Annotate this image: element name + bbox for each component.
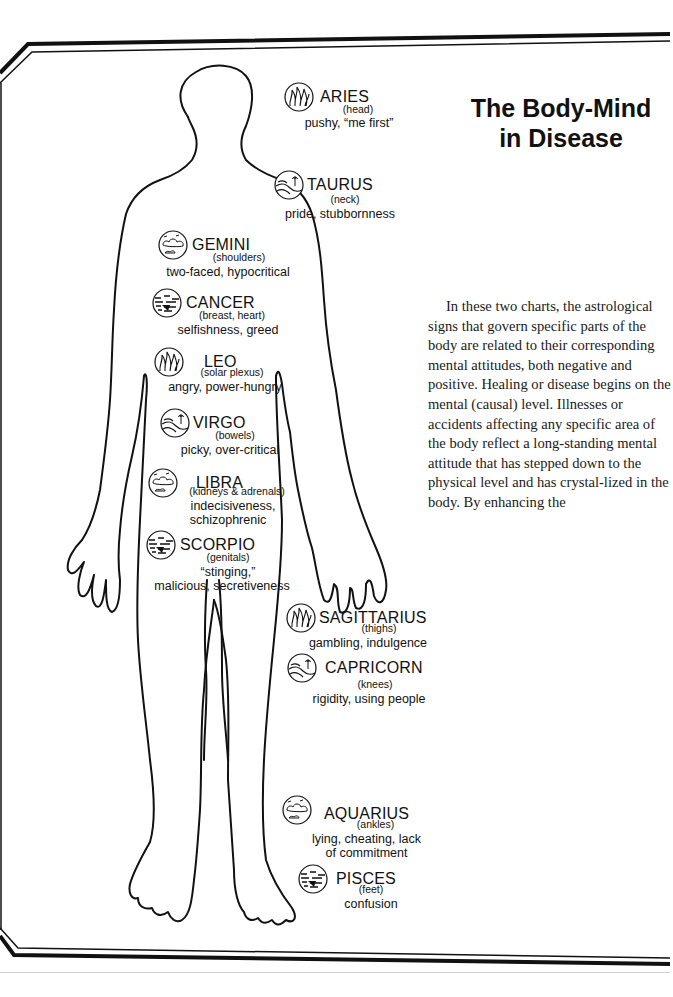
water-icon — [152, 288, 182, 318]
trait: indecisiveness, — [168, 499, 298, 513]
title-line-2: in Disease — [452, 123, 670, 153]
air-icon — [282, 795, 312, 825]
air-icon — [148, 468, 178, 498]
sign-sagittarius: SAGITTARIUS (thighs) gambling, indulgenc… — [286, 603, 436, 650]
bottom-divider — [0, 972, 670, 973]
page-title: The Body-Mind in Disease — [452, 93, 670, 153]
sign-name: TAURUS — [307, 177, 373, 193]
water-icon — [298, 864, 328, 894]
sign-aquarius: AQUARIUS (ankles) lying, cheating, lack … — [282, 795, 437, 860]
sign-virgo: VIRGO (bowels) picky, over-critical — [160, 408, 300, 457]
trait: selfishness, greed — [148, 323, 308, 337]
water-icon — [146, 530, 176, 560]
body-part: (kidneys & adrenals) — [176, 486, 298, 497]
title-line-1: The Body-Mind — [452, 93, 670, 123]
body-part: (solar plexus) — [164, 367, 300, 378]
sign-aries: ARIES (head) pushy, “me first” — [284, 82, 414, 130]
trait: picky, over-critical — [160, 443, 300, 457]
body-part: (head) — [302, 104, 414, 115]
trait-continued: malicious, secretiveness — [142, 579, 302, 593]
fire-icon — [284, 82, 314, 112]
trait: two-faced, hypocritical — [148, 265, 308, 279]
sign-scorpio: SCORPIO (genitals) “stinging,” malicious… — [142, 530, 302, 593]
sign-name: CAPRICORN — [325, 660, 423, 676]
earth-icon — [287, 653, 317, 683]
sign-libra: LIBRA (kidneys & adrenals) indecisivenes… — [148, 468, 298, 527]
trait: pushy, “me first” — [284, 116, 414, 130]
body-part: (shoulders) — [170, 252, 308, 263]
body-paragraph: In these two charts, the astrological si… — [428, 297, 673, 513]
trait: pride, stubbornness — [270, 207, 410, 221]
sign-leo: LEO (solar plexus) angry, power-hungry — [150, 347, 300, 394]
trait: angry, power-hungry — [150, 380, 300, 394]
body-part: (genitals) — [154, 552, 302, 563]
sign-cancer: CANCER (breast, heart) selfishness, gree… — [148, 288, 308, 337]
body-part: (knees) — [313, 679, 437, 690]
trait: gambling, indulgence — [300, 636, 436, 650]
sign-pisces: PISCES (feet) confusion — [298, 864, 408, 911]
earth-icon — [160, 408, 190, 438]
body-text: In these two charts, the astrological si… — [428, 297, 673, 513]
trait-continued: schizophrenic — [158, 513, 298, 527]
trait: confusion — [334, 897, 408, 911]
earth-icon — [274, 170, 304, 200]
fire-icon — [286, 603, 316, 633]
sign-capricorn: CAPRICORN (knees) rigidity, using people — [287, 653, 437, 706]
air-icon — [158, 230, 188, 260]
fire-icon — [154, 347, 184, 377]
sign-taurus: TAURUS (neck) pride, stubbornness — [270, 170, 410, 221]
trait-continued: of commitment — [296, 846, 437, 860]
sign-gemini: GEMINI (shoulders) two-faced, hypocritic… — [148, 230, 308, 279]
trait: lying, cheating, lack — [296, 832, 437, 846]
trait: rigidity, using people — [301, 692, 437, 706]
trait: “stinging,” — [154, 565, 302, 579]
